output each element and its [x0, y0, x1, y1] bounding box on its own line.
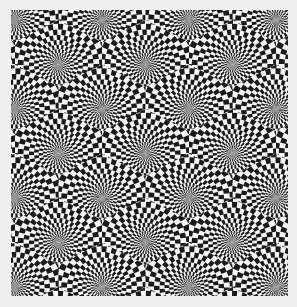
radial-checkerboard-tiles	[11, 10, 288, 296]
op-art-pattern	[11, 10, 288, 296]
